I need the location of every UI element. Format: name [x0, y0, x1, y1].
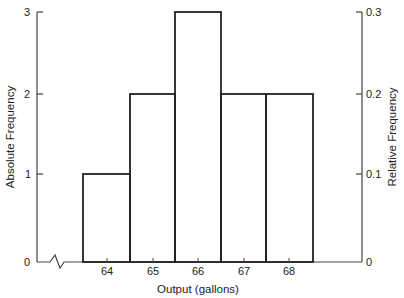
right-tick-0.3: 0.3 — [366, 6, 381, 18]
right-axis-title: Relative Frequency — [386, 87, 398, 186]
bar-67 — [221, 94, 266, 262]
bar-64 — [83, 174, 130, 262]
bar-65 — [130, 94, 175, 262]
histogram-chart: 0 1 2 3 Absolute Frequency 64 65 66 67 6… — [0, 0, 404, 298]
histogram-bars — [83, 12, 313, 262]
x-tick-65: 65 — [147, 265, 159, 277]
left-tick-0: 0 — [24, 256, 30, 268]
right-tick-0.2: 0.2 — [366, 88, 381, 100]
x-tick-64: 64 — [101, 265, 113, 277]
x-tick-67: 67 — [238, 265, 250, 277]
x-axis-title: Output (gallons) — [157, 283, 239, 295]
right-tick-0.1: 0.1 — [366, 168, 381, 180]
x-tick-66: 66 — [192, 265, 204, 277]
x-tick-68: 68 — [283, 265, 295, 277]
left-tick-2: 2 — [24, 88, 30, 100]
bar-68 — [266, 94, 313, 262]
left-axis-title: Absolute Frequency — [4, 86, 16, 189]
right-y-axis — [356, 12, 362, 262]
left-y-axis — [37, 12, 43, 262]
bar-66 — [175, 12, 221, 262]
right-tick-0: 0 — [366, 256, 372, 268]
left-tick-1: 1 — [25, 168, 31, 180]
left-tick-3: 3 — [24, 6, 30, 18]
